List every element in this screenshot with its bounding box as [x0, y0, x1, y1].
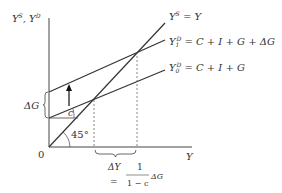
fraction-tail: ΔG: [150, 172, 164, 181]
slope-label: c: [68, 108, 73, 118]
supply-line-label: YS = Y: [169, 10, 202, 22]
fraction-denominator: 1 − c: [127, 179, 149, 188]
angle-label: 45°: [71, 129, 89, 140]
slope-arc: [73, 109, 74, 118]
delta-g-label: ΔG: [23, 100, 39, 111]
delta-y-brace: [95, 150, 136, 157]
origin-label: 0: [38, 149, 44, 160]
y-axis-label: YS, YD: [12, 12, 41, 24]
x-axis-label: Y: [186, 151, 194, 162]
delta-y-label: ΔY: [107, 162, 121, 172]
shift-arrow-icon: [66, 84, 72, 91]
demand0-line-label: Y0D = C + I + G: [169, 61, 245, 74]
keynesian-cross-diagram: c 45° ΔG 0 YS, YD Y YS = Y Y1D = C + I +…: [0, 0, 282, 193]
supply-line-45deg: [49, 23, 165, 147]
equals-sign: =: [110, 177, 118, 187]
demand1-line-label: Y1D = C + I + G + ΔG: [169, 35, 275, 48]
demand-line-y0: [49, 70, 165, 118]
delta-g-brace: [43, 92, 48, 118]
fraction-numerator: 1: [137, 162, 143, 172]
angle-arc: [63, 132, 70, 147]
